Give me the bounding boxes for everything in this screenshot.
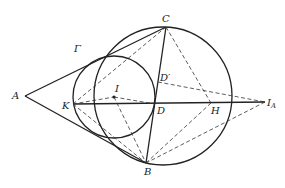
side-AB bbox=[25, 96, 146, 163]
label-C: C bbox=[162, 13, 170, 24]
label-B: B bbox=[143, 166, 151, 177]
label-D: D bbox=[156, 105, 165, 116]
dash-Dprime-IA bbox=[158, 82, 265, 102]
label-IA-sub: A bbox=[270, 102, 276, 110]
label-IA: IA bbox=[266, 97, 276, 110]
dash-K-B bbox=[73, 104, 146, 163]
label-H: H bbox=[210, 105, 220, 116]
label-A: A bbox=[11, 90, 19, 101]
label-I: I bbox=[114, 83, 120, 94]
label-gamma: Γ bbox=[73, 43, 82, 54]
label-K: K bbox=[61, 100, 70, 111]
geometry-diagram: C Γ A K I D′ D H IA B bbox=[0, 0, 285, 188]
side-BC bbox=[146, 27, 166, 163]
dash-I-B bbox=[114, 97, 146, 163]
point-I-dot bbox=[112, 95, 115, 98]
line-K-IA bbox=[73, 102, 265, 104]
label-D-prime: D′ bbox=[159, 72, 171, 83]
dash-C-H bbox=[166, 27, 211, 103]
